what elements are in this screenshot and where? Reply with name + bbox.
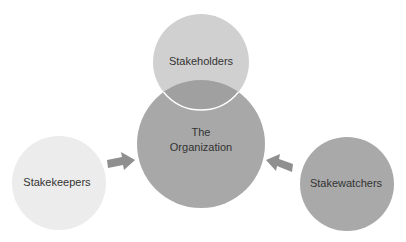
stakeholders-label: Stakeholders	[169, 55, 234, 67]
arrow-left-icon	[266, 154, 293, 172]
organization-label-line2: Organization	[170, 141, 232, 153]
arrow-right-icon	[107, 152, 135, 170]
stakeholder-diagram: Stakeholders The Organization Stakekeepe…	[0, 0, 406, 242]
stakekeepers-label: Stakekeepers	[23, 176, 91, 188]
stakewatchers-label: Stakewatchers	[310, 177, 383, 189]
organization-label-line1: The	[192, 126, 211, 138]
